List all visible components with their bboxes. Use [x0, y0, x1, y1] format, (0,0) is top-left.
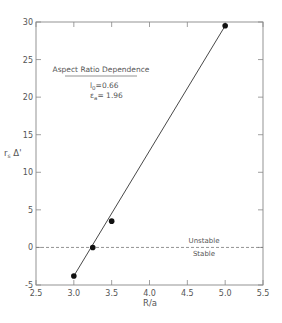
axis-ticks [36, 22, 263, 285]
y-tick-label: 0 [28, 243, 33, 252]
y-tick-label: 5 [28, 206, 33, 215]
y-tick-label: -5 [25, 281, 33, 290]
y-axis-label: rs Δ' [4, 148, 22, 159]
legend-box: Aspect Ratio Dependence l0=0.66 εa= 1.96 [53, 65, 150, 101]
x-tick-label: 2.5 [30, 289, 43, 298]
y-tick-label: 10 [23, 168, 33, 177]
data-series [36, 23, 263, 279]
y-tick-label: 20 [23, 93, 33, 102]
x-tick-label: 4.5 [181, 289, 194, 298]
unstable-label: Unstable [189, 237, 220, 245]
legend-param-epsilon: εa= 1.96 [90, 91, 123, 101]
tick-labels: 2.53.03.54.04.55.05.5-5051015202530 [23, 18, 270, 298]
data-point [109, 218, 115, 224]
x-tick-label: 3.0 [67, 289, 80, 298]
data-point [222, 23, 228, 29]
y-tick-label: 15 [23, 131, 33, 140]
x-tick-label: 4.0 [143, 289, 156, 298]
x-tick-label: 5.5 [257, 289, 270, 298]
legend-param-l0: l0=0.66 [90, 81, 119, 91]
x-axis-label: R/a [143, 298, 157, 308]
plot-border [36, 22, 263, 285]
x-tick-label: 3.5 [105, 289, 118, 298]
plot-frame [36, 22, 263, 285]
chart: 2.53.03.54.04.55.05.5-5051015202530 R/a … [0, 0, 282, 323]
data-point [71, 273, 77, 279]
y-tick-label: 30 [23, 18, 33, 27]
stable-label: Stable [193, 250, 215, 258]
legend-title: Aspect Ratio Dependence [53, 65, 150, 74]
data-point [90, 245, 96, 251]
x-tick-label: 5.0 [219, 289, 232, 298]
y-tick-label: 25 [23, 56, 33, 65]
